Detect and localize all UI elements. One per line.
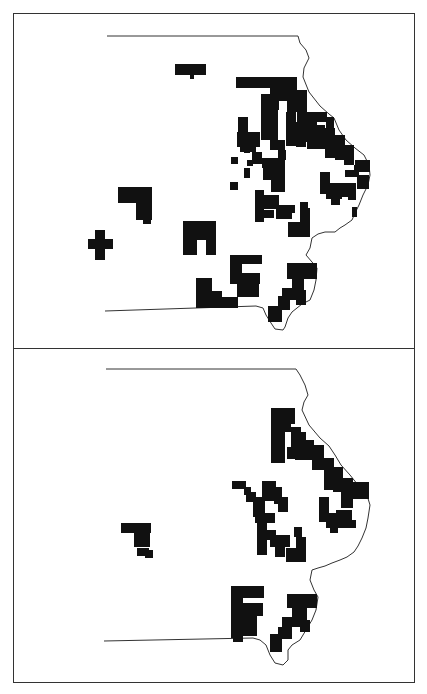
shaded-region: [325, 128, 335, 158]
map-panel-top: [14, 14, 414, 348]
shaded-region: [261, 128, 278, 140]
shaded-region: [183, 240, 197, 255]
shaded-region: [341, 478, 353, 508]
shaded-region: [287, 77, 297, 112]
shaded-region: [261, 94, 278, 128]
shaded-region: [95, 230, 105, 260]
shaded-region: [275, 547, 285, 557]
shaded-region: [262, 481, 276, 501]
shaded-region: [345, 170, 354, 177]
map-panel-bottom: [14, 349, 414, 682]
shaded-region: [296, 290, 306, 305]
shaded-region: [324, 458, 334, 490]
shaded-region: [279, 77, 287, 101]
map-bottom-svg: [14, 349, 414, 682]
shaded-region: [230, 182, 238, 190]
shaded-region: [296, 122, 306, 147]
shaded-region: [212, 291, 222, 308]
shaded-region: [317, 112, 327, 122]
shaded-region: [263, 168, 285, 180]
shaded-region: [300, 620, 310, 632]
shaded-region: [230, 264, 242, 284]
shaded-region: [268, 306, 282, 322]
shaded-region: [255, 513, 275, 523]
shaded-region: [243, 616, 257, 636]
shaded-region: [183, 221, 216, 240]
shaded-region: [270, 140, 285, 150]
shaded-region: [240, 142, 256, 152]
shaded-region: [344, 145, 354, 165]
shaded-region: [315, 125, 325, 149]
shaded-region: [336, 510, 352, 528]
shaded-region: [136, 200, 152, 220]
shaded-region: [271, 180, 285, 192]
shaded-region: [145, 550, 153, 558]
shaded-region: [294, 527, 302, 537]
shaded-region: [348, 192, 356, 200]
shaded-region: [312, 445, 324, 470]
shaded-region: [282, 617, 300, 627]
shaded-region: [244, 168, 250, 178]
shaded-region: [290, 205, 295, 213]
shaded-cells-top: [88, 64, 370, 322]
shaded-region: [190, 75, 194, 79]
shaded-region: [352, 207, 357, 217]
shaded-region: [237, 284, 259, 297]
shaded-cells-bottom: [121, 408, 369, 652]
shaded-region: [255, 190, 264, 222]
shaded-region: [353, 482, 369, 499]
shaded-region: [270, 158, 285, 168]
shaded-region: [276, 205, 292, 219]
shaded-region: [252, 152, 262, 164]
shaded-region: [300, 208, 310, 222]
shaded-region: [270, 634, 282, 652]
shaded-region: [231, 157, 238, 164]
shaded-region: [288, 222, 310, 237]
shaded-region: [257, 523, 267, 555]
shaded-region: [306, 132, 316, 142]
shaded-region: [140, 530, 150, 547]
shaded-region: [287, 594, 317, 608]
shaded-region: [231, 586, 264, 598]
shaded-region: [287, 263, 317, 279]
shaded-region: [236, 77, 284, 88]
shaded-region: [278, 497, 288, 512]
shaded-region: [196, 278, 212, 308]
shaded-region: [336, 153, 344, 159]
shaded-region: [230, 255, 262, 264]
shaded-region: [242, 273, 260, 284]
shaded-region: [232, 481, 246, 489]
shaded-region: [143, 218, 151, 224]
shaded-region: [297, 90, 307, 112]
shaded-region: [264, 210, 274, 218]
shaded-region: [330, 525, 338, 533]
shaded-region: [286, 112, 296, 146]
map-top-svg: [14, 14, 414, 348]
shaded-region: [175, 64, 206, 75]
shaded-region: [243, 603, 263, 616]
shaded-region: [331, 195, 340, 205]
shaded-region: [270, 535, 290, 547]
shaded-region: [350, 520, 356, 528]
shaded-region: [286, 548, 300, 562]
shaded-region: [247, 160, 253, 166]
shaded-region: [221, 297, 238, 308]
shaded-region: [206, 240, 216, 255]
shaded-region: [233, 630, 243, 642]
shaded-region: [238, 117, 248, 132]
shaded-region: [271, 408, 285, 463]
shaded-region: [357, 175, 369, 189]
shaded-region: [285, 420, 291, 432]
